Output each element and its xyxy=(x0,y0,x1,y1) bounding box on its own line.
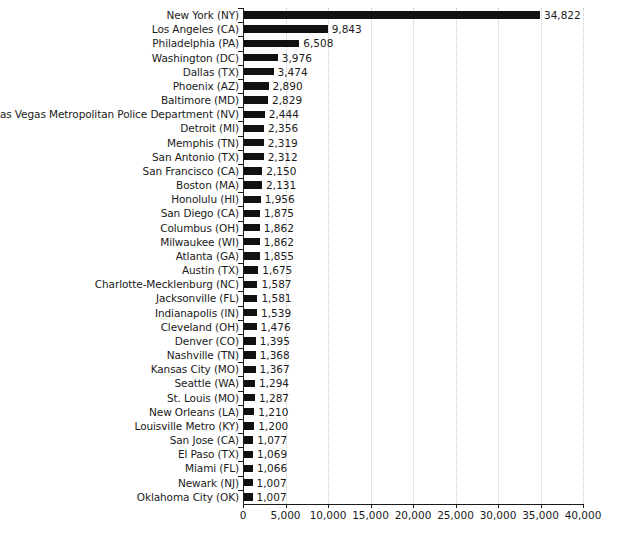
x-axis-tick xyxy=(541,504,542,508)
category-label: Charlotte-Mecklenburg (NC) xyxy=(95,277,239,291)
bar-value-label: 1,862 xyxy=(264,235,294,249)
x-axis-ticks: 05,00010,00015,00020,00025,00030,00035,0… xyxy=(0,504,623,524)
bar xyxy=(244,366,256,373)
y-axis-tick xyxy=(238,419,243,420)
category-label: San Francisco (CA) xyxy=(143,164,239,178)
table-row: San Jose (CA)1,077 xyxy=(0,433,623,447)
bar xyxy=(244,408,254,415)
x-axis-tick-label: 40,000 xyxy=(565,509,602,521)
y-axis-tick xyxy=(238,320,243,321)
bar xyxy=(244,181,262,188)
table-row: Atlanta (GA)1,855 xyxy=(0,249,623,263)
y-axis-tick xyxy=(238,277,243,278)
bar xyxy=(244,309,257,316)
category-label: Washington (DC) xyxy=(152,51,239,65)
bar xyxy=(244,153,264,160)
bar-rows: New York (NY)34,822Los Angeles (CA)9,843… xyxy=(0,8,623,504)
table-row: Charlotte-Mecklenburg (NC)1,587 xyxy=(0,277,623,291)
y-axis-tick xyxy=(238,433,243,434)
y-axis-tick xyxy=(238,249,243,250)
bar xyxy=(244,82,269,89)
table-row: San Antonio (TX)2,312 xyxy=(0,150,623,164)
category-label: Memphis (TN) xyxy=(167,136,239,150)
category-label: El Paso (TX) xyxy=(178,447,239,461)
bar-value-label: 1,956 xyxy=(265,192,295,206)
category-label: Dallas (TX) xyxy=(183,65,239,79)
table-row: Denver (CO)1,395 xyxy=(0,334,623,348)
table-row: Miami (FL)1,066 xyxy=(0,461,623,475)
y-axis-tick xyxy=(238,306,243,307)
table-row: Honolulu (HI)1,956 xyxy=(0,192,623,206)
bar-value-label: 1,007 xyxy=(257,476,287,490)
bar xyxy=(244,96,268,103)
bar xyxy=(244,210,260,217)
bar-value-label: 1,862 xyxy=(264,221,294,235)
table-row: New York (NY)34,822 xyxy=(0,8,623,22)
category-label: Newark (NJ) xyxy=(178,476,239,490)
table-row: Boston (MA)2,131 xyxy=(0,178,623,192)
category-label: Miami (FL) xyxy=(185,461,239,475)
table-row: Indianapolis (IN)1,539 xyxy=(0,306,623,320)
category-label: Las Vegas Metropolitan Police Department… xyxy=(0,107,239,121)
x-axis-tick xyxy=(413,504,414,508)
table-row: Seattle (WA)1,294 xyxy=(0,376,623,390)
table-row: Newark (NJ)1,007 xyxy=(0,476,623,490)
y-axis-tick xyxy=(238,362,243,363)
y-axis-tick xyxy=(238,235,243,236)
y-axis-tick xyxy=(238,79,243,80)
bar-value-label: 9,843 xyxy=(332,22,362,36)
category-label: Kansas City (MO) xyxy=(151,362,239,376)
bar xyxy=(244,196,261,203)
bar-value-label: 6,508 xyxy=(303,36,333,50)
table-row: Dallas (TX)3,474 xyxy=(0,65,623,79)
category-label: Milwaukee (WI) xyxy=(160,235,239,249)
x-axis-tick xyxy=(243,504,244,508)
bar xyxy=(244,479,253,486)
bar-value-label: 1,007 xyxy=(257,490,287,504)
x-axis-title xyxy=(0,526,623,538)
y-axis-tick xyxy=(238,136,243,137)
table-row: Washington (DC)3,976 xyxy=(0,51,623,65)
bar xyxy=(244,252,260,259)
bar-value-label: 1,200 xyxy=(258,419,288,433)
bar-value-label: 1,287 xyxy=(259,391,289,405)
x-axis-tick xyxy=(286,504,287,508)
category-label: Nashville (TN) xyxy=(167,348,239,362)
category-label: St. Louis (MO) xyxy=(167,391,239,405)
bar-value-label: 1,855 xyxy=(264,249,294,263)
table-row: Las Vegas Metropolitan Police Department… xyxy=(0,107,623,121)
bar-value-label: 2,150 xyxy=(266,164,296,178)
y-axis-tick xyxy=(238,348,243,349)
y-axis-tick xyxy=(238,476,243,477)
table-row: San Francisco (CA)2,150 xyxy=(0,164,623,178)
category-label: Columbus (OH) xyxy=(160,221,239,235)
table-row: Memphis (TN)2,319 xyxy=(0,136,623,150)
bar xyxy=(244,451,253,458)
x-axis-tick-label: 25,000 xyxy=(437,509,474,521)
table-row: Nashville (TN)1,368 xyxy=(0,348,623,362)
table-row: Los Angeles (CA)9,843 xyxy=(0,22,623,36)
table-row: Cleveland (OH)1,476 xyxy=(0,320,623,334)
category-label: Los Angeles (CA) xyxy=(152,22,239,36)
bar xyxy=(244,323,257,330)
bar-value-label: 2,312 xyxy=(268,150,298,164)
y-axis-tick xyxy=(238,36,243,37)
bar-value-label: 1,069 xyxy=(257,447,287,461)
bar-value-label: 3,976 xyxy=(282,51,312,65)
bar xyxy=(244,40,299,47)
category-label: New York (NY) xyxy=(166,8,239,22)
category-label: San Diego (CA) xyxy=(161,206,239,220)
bar xyxy=(244,266,258,273)
table-row: Oklahoma City (OK)1,007 xyxy=(0,490,623,504)
category-label: New Orleans (LA) xyxy=(149,405,239,419)
y-axis-tick xyxy=(238,178,243,179)
category-label: Indianapolis (IN) xyxy=(155,306,239,320)
bar xyxy=(244,25,328,32)
bar-value-label: 1,368 xyxy=(260,348,290,362)
y-axis-tick xyxy=(238,263,243,264)
bar-value-label: 2,444 xyxy=(269,107,299,121)
bar-chart: New York (NY)34,822Los Angeles (CA)9,843… xyxy=(0,0,623,538)
x-axis-tick-label: 35,000 xyxy=(522,509,559,521)
y-axis-tick xyxy=(238,334,243,335)
x-axis-tick xyxy=(371,504,372,508)
